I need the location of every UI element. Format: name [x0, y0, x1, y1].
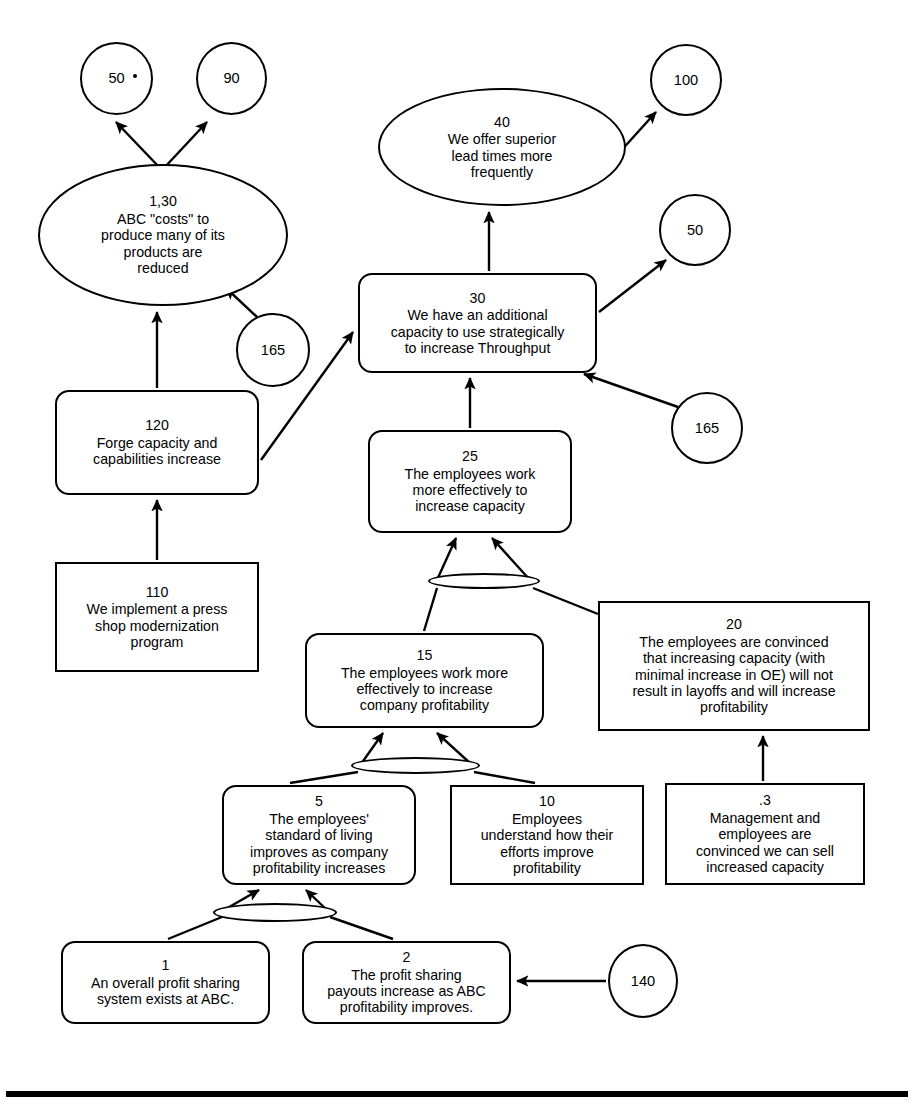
node-id: .3: [759, 792, 771, 808]
node-id: 100: [674, 72, 698, 89]
node-3[interactable]: .3 Management and employees are convince…: [665, 783, 865, 885]
node-text: We offer superior lead times more freque…: [448, 131, 556, 180]
node-id: 10: [539, 793, 555, 809]
and-connector-25: [428, 573, 540, 589]
node-130[interactable]: 1,30 ABC "costs" to produce many of its …: [38, 164, 288, 306]
node-text: Forge capacity and capabilities increase: [93, 435, 221, 468]
node-text: The employees are convinced that increas…: [632, 634, 835, 716]
edge-30-to-50b: [599, 260, 666, 312]
edge-130-to-50: [116, 122, 160, 168]
node-id: 2: [403, 949, 411, 965]
node-text: The employees work more effectively to i…: [341, 665, 508, 714]
node-15[interactable]: 15 The employees work more effectively t…: [305, 633, 544, 728]
and-connector-15: [351, 757, 480, 774]
bottom-rule: [6, 1091, 908, 1097]
node-text: The employees work more effectively to i…: [405, 466, 536, 515]
node-text: Management and employees are convinced w…: [696, 810, 834, 876]
edge-1-to-and5: [168, 917, 222, 939]
node-id: 1,30: [149, 193, 177, 209]
node-90[interactable]: 90: [196, 42, 267, 115]
node-text: ABC "costs" to produce many of its produ…: [101, 211, 225, 277]
edge-10-to-and15: [474, 772, 535, 783]
ink-speck: [133, 74, 137, 78]
node-id: 165: [261, 342, 285, 359]
node-text: We implement a press shop modernization …: [87, 601, 228, 650]
edge-130-to-90: [164, 122, 207, 168]
node-id: 50: [687, 222, 703, 239]
edge-2-to-and5: [330, 917, 393, 939]
edge-15-to-and25: [424, 588, 437, 631]
node-text: The employees' standard of living improv…: [250, 811, 388, 877]
node-id: 30: [470, 290, 486, 306]
node-id: 140: [631, 973, 655, 990]
node-text: The profit sharing payouts increase as A…: [327, 967, 486, 1016]
edge-165b-to-30: [584, 374, 678, 407]
node-text: We have an additional capacity to use st…: [391, 307, 565, 356]
node-id: 110: [146, 584, 169, 600]
edge-20-to-and25: [533, 588, 598, 614]
node-110[interactable]: 110 We implement a press shop modernizat…: [55, 562, 259, 672]
node-id: 1: [162, 957, 170, 973]
node-id: 90: [223, 70, 239, 87]
node-30[interactable]: 30 We have an additional capacity to use…: [358, 273, 597, 373]
node-40[interactable]: 40 We offer superior lead times more fre…: [378, 88, 626, 206]
diagram-canvas: 50 90 1,30 ABC "costs" to produce many o…: [0, 0, 914, 1111]
node-id: 5: [315, 793, 323, 809]
node-text: An overall profit sharing system exists …: [91, 975, 240, 1008]
node-50-right[interactable]: 50: [659, 194, 731, 266]
node-id: 40: [494, 114, 510, 130]
node-id: 50: [108, 70, 124, 87]
node-1[interactable]: 1 An overall profit sharing system exist…: [61, 941, 270, 1024]
node-id: 120: [145, 417, 169, 433]
node-100[interactable]: 100: [650, 44, 722, 116]
node-2[interactable]: 2 The profit sharing payouts increase as…: [302, 941, 511, 1024]
node-120[interactable]: 120 Forge capacity and capabilities incr…: [55, 390, 259, 495]
node-140[interactable]: 140: [608, 944, 678, 1018]
node-165-left[interactable]: 165: [236, 313, 310, 387]
node-id: 165: [695, 420, 719, 437]
node-165-right[interactable]: 165: [671, 392, 743, 464]
node-10[interactable]: 10 Employees understand how their effort…: [450, 785, 644, 885]
node-id: 15: [417, 647, 433, 663]
node-25[interactable]: 25 The employees work more effectively t…: [368, 430, 572, 533]
node-5[interactable]: 5 The employees' standard of living impr…: [222, 785, 416, 885]
edge-5-to-and15: [290, 772, 358, 783]
node-id: 25: [462, 448, 478, 464]
node-id: 20: [726, 616, 742, 632]
node-text: Employees understand how their efforts i…: [481, 811, 614, 877]
and-connector-5: [213, 903, 337, 922]
node-50-top-left[interactable]: 50: [80, 42, 153, 115]
node-20[interactable]: 20 The employees are convinced that incr…: [598, 601, 870, 731]
